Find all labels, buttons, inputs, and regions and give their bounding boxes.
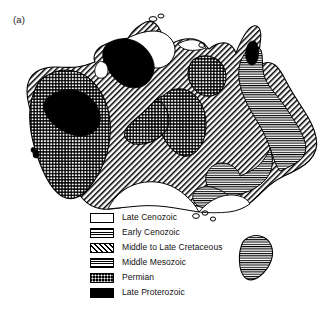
legend-label-permian: Permian (122, 273, 154, 282)
legend-label-early-cenozoic: Early Cenozoic (122, 228, 180, 237)
legend-swatch-early-cenozoic (90, 228, 114, 238)
legend-label-middle-mesozoic: Middle Mesozoic (122, 258, 186, 267)
legend-item-permian: Permian (90, 270, 300, 285)
legend-swatch-late-proterozoic (90, 288, 114, 298)
legend-label-middle-to-late-cretaceous: Middle to Late Cretaceous (122, 243, 222, 252)
map-legend: Late Cenozoic Early Cenozoic Middle to L… (90, 210, 300, 300)
legend-item-late-proterozoic: Late Proterozoic (90, 285, 300, 300)
figure-root: (a) (0, 0, 330, 326)
legend-label-late-proterozoic: Late Proterozoic (122, 288, 185, 297)
legend-swatch-late-cenozoic (90, 213, 114, 223)
legend-item-early-cenozoic: Early Cenozoic (90, 225, 300, 240)
legend-label-late-cenozoic: Late Cenozoic (122, 213, 177, 222)
legend-swatch-permian (90, 273, 114, 283)
legend-item-late-cenozoic: Late Cenozoic (90, 210, 300, 225)
legend-swatch-middle-mesozoic (90, 258, 114, 268)
legend-item-middle-mesozoic: Middle Mesozoic (90, 255, 300, 270)
legend-item-middle-to-late-cretaceous: Middle to Late Cretaceous (90, 240, 300, 255)
map-region-proterozoic-cape-york (246, 41, 259, 65)
legend-swatch-middle-to-late-cretaceous (90, 243, 114, 253)
